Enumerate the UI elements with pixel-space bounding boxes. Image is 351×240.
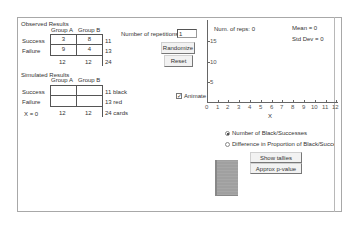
observed-cell-failure-b: 4: [77, 44, 102, 55]
y-tick-label: 10: [210, 59, 217, 66]
mean-label: Mean = 0: [292, 25, 317, 32]
randomize-button[interactable]: Randomize: [161, 42, 195, 54]
simulated-grand-total: 24 cards: [105, 110, 128, 117]
observed-row-total-failure: 13: [105, 48, 112, 55]
x-tick-label: 7: [280, 104, 283, 111]
observed-row-total-success: 11: [105, 38, 111, 45]
simulated-row-total-failure: 13 red: [105, 99, 122, 106]
observed-row-label-success: Success: [22, 38, 45, 45]
option-difference-label: Difference in Proportion of Black/Succes…: [232, 141, 334, 148]
card-deck: [215, 160, 238, 196]
simulated-col-total-b: 12: [85, 110, 92, 117]
x-tick-label: 10: [311, 104, 318, 111]
simulated-col-header-b: Group B: [78, 77, 100, 84]
x-tick-label: 8: [291, 104, 294, 111]
x-tick-label: 2: [226, 104, 229, 111]
simulated-row-total-success: 11 black: [105, 89, 127, 96]
x-tick-label: 11: [322, 104, 328, 111]
num-reps-label: Num. of reps: 0: [214, 26, 255, 33]
x-tick-label: 9: [302, 104, 305, 111]
x-value-label: X = 0: [24, 111, 38, 118]
simulated-col-total-a: 12: [59, 110, 66, 117]
std-dev-label: Std Dev = 0: [292, 36, 324, 43]
x-tick-label: 3: [237, 104, 240, 111]
simulated-row-label-success: Success: [22, 89, 45, 96]
x-tick-label: 4: [248, 104, 251, 111]
x-tick-label: 0: [205, 104, 208, 111]
x-tick-label: 6: [270, 104, 273, 111]
x-tick-label: 1: [216, 104, 219, 111]
observed-col-header-a: Group A: [51, 27, 73, 34]
repetitions-input[interactable]: 1: [177, 29, 197, 38]
simulated-table: [50, 85, 103, 107]
radio-number-of-successes[interactable]: [225, 131, 230, 136]
animate-checkbox[interactable]: ✓: [176, 93, 182, 99]
simulated-col-header-a: Group A: [51, 77, 73, 84]
observed-table: 3 8 9 4: [50, 34, 103, 56]
observed-col-header-b: Group B: [78, 27, 100, 34]
y-tick-label: 5: [210, 79, 213, 86]
observed-col-total-b: 12: [85, 59, 92, 66]
observed-cell-failure-a: 9: [51, 44, 76, 55]
simulated-row-label-failure: Failure: [22, 99, 40, 106]
show-tallies-button[interactable]: Show tallies: [250, 152, 302, 163]
x-axis-label: X: [268, 113, 272, 120]
approx-pvalue-button[interactable]: Approx p-value: [250, 163, 302, 174]
y-tick-label: 15: [210, 38, 217, 45]
animate-label: Animate: [184, 93, 206, 100]
radio-difference-in-proportion[interactable]: [225, 142, 230, 147]
x-tick-label: 5: [259, 104, 262, 111]
option-number-label: Number of Black/Successes: [232, 130, 307, 137]
repetitions-label: Number of repetitions:: [121, 31, 180, 38]
observed-grand-total: 24: [105, 59, 112, 66]
reset-button[interactable]: Reset: [164, 55, 193, 67]
observed-col-total-a: 12: [59, 59, 66, 66]
observed-row-label-failure: Failure: [22, 48, 40, 55]
x-tick-label: 12: [332, 104, 339, 111]
